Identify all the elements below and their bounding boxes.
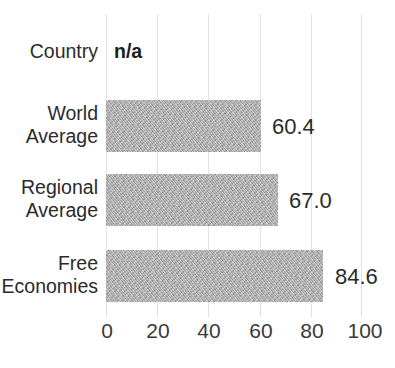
value-label-free-economies: 84.6 <box>335 264 378 290</box>
x-axis-label-40: 40 <box>197 318 220 343</box>
value-label-country: n/a <box>114 40 142 63</box>
x-axis-tick-40 <box>208 307 209 317</box>
x-axis-label-0: 0 <box>101 318 113 343</box>
category-label-country-line1: Country <box>30 40 98 62</box>
category-label-free-economies-line1: Free <box>58 252 98 274</box>
category-label-free-economies-line2: Economies <box>2 275 98 298</box>
bar-world-average <box>106 100 261 152</box>
category-label-country: Country <box>30 40 98 63</box>
x-axis-label-20: 20 <box>146 318 169 343</box>
x-axis-ticks <box>106 307 362 317</box>
x-axis-tick-labels: 0 20 40 60 80 100 <box>0 318 395 348</box>
category-label-regional-average-line2: Average <box>21 199 98 222</box>
x-axis-tick-100 <box>361 307 362 317</box>
bar-regional-average <box>106 174 278 226</box>
chart-title-sliver <box>148 0 248 3</box>
x-axis-tick-20 <box>157 307 158 317</box>
category-label-world-average-line2: Average <box>26 125 98 148</box>
x-axis-label-80: 80 <box>300 318 323 343</box>
x-axis-tick-80 <box>311 307 312 317</box>
value-label-world-average: 60.4 <box>272 114 315 140</box>
x-axis-label-60: 60 <box>249 318 272 343</box>
category-label-world-average: World Average <box>26 102 98 148</box>
category-label-regional-average: Regional Average <box>21 176 98 222</box>
category-label-free-economies: Free Economies <box>2 252 98 298</box>
x-axis-tick-60 <box>260 307 261 317</box>
bar-chart: Country World Average Regional Average F… <box>0 0 395 368</box>
category-label-regional-average-line1: Regional <box>21 176 98 198</box>
value-label-regional-average: 67.0 <box>289 188 332 214</box>
category-label-world-average-line1: World <box>47 102 98 124</box>
x-axis-tick-0 <box>106 307 107 317</box>
x-axis-label-100: 100 <box>347 318 382 343</box>
bar-free-economies <box>106 250 323 302</box>
plot-area <box>106 14 362 307</box>
